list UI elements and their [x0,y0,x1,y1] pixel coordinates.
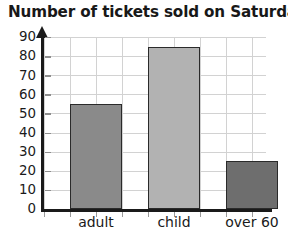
y-tick-label-10: 10 [2,183,36,196]
y-tick-mark-70 [45,75,51,76]
gridline-y-90 [44,37,266,38]
y-tick-mark-80 [45,56,51,57]
y-tick-label-40: 40 [2,126,36,139]
chart-title: Number of tickets sold on Saturday [8,3,286,21]
bar-chart: Number of tickets sold on Saturday 01020… [0,0,288,237]
x-label-adult: adult [56,214,136,230]
bar-child [148,47,200,209]
y-tick-mark-60 [45,94,51,95]
x-tick-mark [44,212,45,217]
y-tick-label-60: 60 [2,88,36,101]
gridline-x [200,37,201,209]
y-tick-label-50: 50 [2,107,36,120]
y-tick-label-80: 80 [2,49,36,62]
bar-adult [70,104,122,209]
y-tick-label-30: 30 [2,145,36,158]
y-tick-label-70: 70 [2,69,36,82]
y-tick-label-90: 90 [2,30,36,43]
x-label-over-60: over 60 [212,214,288,230]
x-label-child: child [134,214,214,230]
y-tick-mark-10 [45,190,51,191]
y-tick-mark-20 [45,171,51,172]
plot-area [44,37,266,209]
y-tick-label-20: 20 [2,164,36,177]
y-tick-mark-30 [45,152,51,153]
y-tick-mark-50 [45,113,51,114]
y-tick-mark-40 [45,133,51,134]
gridline-x [122,37,123,209]
y-axis-line [41,36,44,210]
bar-over-60 [226,161,278,209]
y-tick-mark-90 [45,37,51,38]
y-tick-label-0: 0 [2,202,36,215]
x-axis-line [41,209,272,212]
